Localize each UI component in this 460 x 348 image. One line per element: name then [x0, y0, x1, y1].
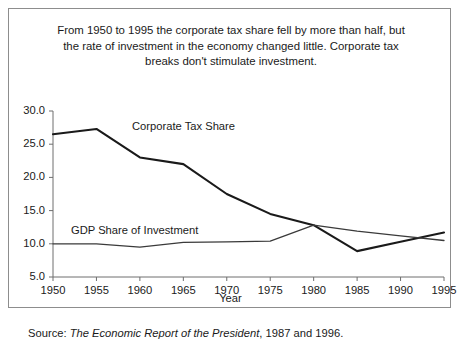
line-chart: [9, 9, 452, 309]
figure-panel: From 1950 to 1995 the corporate tax shar…: [8, 8, 451, 308]
source-prefix: Source:: [28, 327, 67, 339]
y-axis-tick-label: 30.0: [11, 105, 45, 116]
source-suffix: , 1987 and 1996.: [259, 327, 343, 339]
y-axis-tick-label: 5.0: [11, 271, 45, 282]
source-work-title: The Economic Report of the President: [70, 327, 260, 339]
y-axis-tick-label: 10.0: [11, 238, 45, 249]
x-axis-title: Year: [9, 292, 452, 304]
y-axis-tick-label: 15.0: [11, 205, 45, 216]
chart-plot-area: 30.025.020.015.010.05.019501955196019651…: [9, 9, 452, 309]
y-axis-tick-label: 25.0: [11, 138, 45, 149]
series-label-gdp-share-of-investment: GDP Share of Investment: [71, 224, 198, 236]
cropped-text-fragment: . . . ..: [58, 0, 238, 6]
source-note: Source: The Economic Report of the Presi…: [28, 327, 343, 339]
y-axis-tick-label: 20.0: [11, 171, 45, 182]
series-label-corporate-tax-share: Corporate Tax Share: [132, 120, 235, 132]
